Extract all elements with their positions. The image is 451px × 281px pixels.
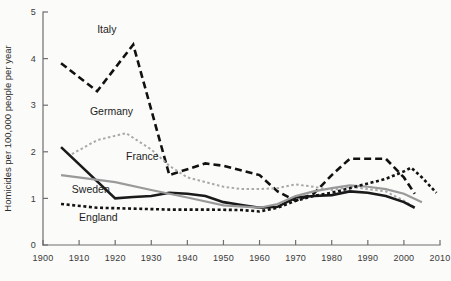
x-axis-tick-label: 1980 [321, 253, 342, 263]
y-axis-tick-label: 0 [31, 240, 36, 250]
y-axis-tick-label: 3 [31, 100, 36, 110]
x-axis-tick-label: 1950 [213, 253, 234, 263]
series-label-germany: Germany [90, 105, 134, 117]
y-axis-tick-label: 4 [31, 54, 36, 64]
chart-canvas: 0123451900191019201930194019501960197019… [0, 0, 451, 281]
x-axis-tick-label: 1970 [285, 253, 306, 263]
chart-series-lines [61, 45, 436, 212]
x-axis-tick-label: 1900 [33, 253, 54, 263]
series-line-sweden [61, 175, 422, 208]
series-label-england: England [79, 211, 118, 223]
chart-series-labels: ItalyGermanyFranceSwedenEngland [72, 23, 159, 223]
series-label-france: France [126, 150, 159, 162]
chart-axis-titles: Homicides per 100,000 people per year [2, 45, 13, 211]
x-axis-tick-label: 1990 [357, 253, 378, 263]
x-axis-tick-label: 1920 [105, 253, 126, 263]
x-axis-tick-label: 2000 [393, 253, 414, 263]
y-axis-tick-label: 1 [31, 194, 36, 204]
x-axis-tick-label: 1910 [69, 253, 90, 263]
y-axis-title: Homicides per 100,000 people per year [2, 45, 13, 211]
series-line-italy [61, 45, 415, 201]
x-axis-tick-label: 1960 [249, 253, 270, 263]
series-label-italy: Italy [97, 23, 117, 35]
x-axis-tick-label: 1940 [177, 253, 198, 263]
x-axis-tick-label: 1930 [141, 253, 162, 263]
x-axis-tick-label: 2010 [430, 253, 451, 263]
y-axis-tick-label: 2 [31, 147, 36, 157]
series-line-france [61, 147, 415, 208]
y-axis-tick-label: 5 [31, 7, 36, 17]
homicide-rate-line-chart: 0123451900191019201930194019501960197019… [0, 0, 451, 281]
series-label-sweden: Sweden [72, 183, 110, 195]
chart-axes: 0123451900191019201930194019501960197019… [31, 7, 451, 263]
